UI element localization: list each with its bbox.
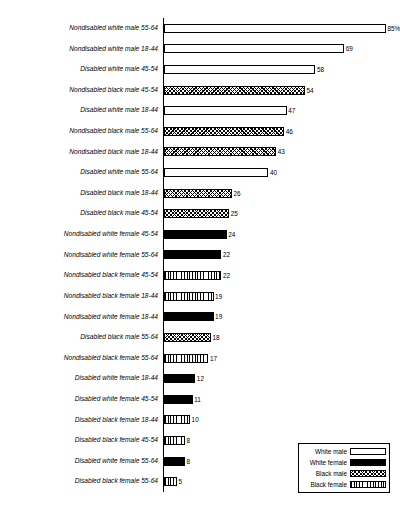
legend-swatch-black-female	[350, 481, 386, 489]
bar-black-female	[164, 415, 190, 424]
bar-wrapper: 54	[164, 80, 314, 101]
legend-item-white-female: White female	[302, 457, 386, 468]
bar-wrapper: 8	[164, 430, 190, 451]
bar-black-male	[164, 189, 232, 198]
bar-white-male	[164, 65, 315, 74]
bar-value-label: 19	[215, 292, 222, 301]
bar-category-label: Nondisabled white female 18-44	[0, 307, 158, 328]
legend-item-black-male: Black male	[302, 468, 386, 479]
bar-category-label: Nondisabled white male 18-44	[0, 39, 158, 60]
bar-category-label: Nondisabled black male 18-44	[0, 142, 158, 163]
bar-value-label: 43	[278, 147, 285, 156]
legend-item-label: White male	[315, 448, 347, 455]
plot-area: Nondisabled white male 55-6485%Nondisabl…	[0, 18, 397, 492]
bar-black-female	[164, 271, 221, 280]
bar-row: Disabled white male 45-5458	[0, 59, 397, 80]
legend-item-white-male: White male	[302, 446, 386, 457]
bar-category-label: Nondisabled white male 55-64	[0, 18, 158, 39]
bar-category-label: Disabled white male 55-64	[0, 162, 158, 183]
bar-value-label: 18	[213, 333, 220, 342]
bar-row: Disabled black male 45-5425	[0, 203, 397, 224]
bar-wrapper: 25	[164, 203, 238, 224]
bar-category-label: Disabled black male 55-64	[0, 327, 158, 348]
bar-wrapper: 5	[164, 471, 182, 492]
bar-value-label: 85%	[388, 24, 400, 33]
bar-wrapper: 19	[164, 307, 222, 328]
bar-row: Nondisabled white male 55-6485%	[0, 18, 397, 39]
bar-row: Disabled white female 18-4412	[0, 368, 397, 389]
bar-value-label: 24	[228, 230, 235, 239]
bar-wrapper: 24	[164, 224, 235, 245]
bar-category-label: Disabled white female 18-44	[0, 368, 158, 389]
bar-category-label: Nondisabled black female 18-44	[0, 286, 158, 307]
bar-row: Nondisabled black female 55-6417	[0, 348, 397, 369]
bar-row: Disabled white female 45-5411	[0, 389, 397, 410]
bar-wrapper: 19	[164, 286, 222, 307]
legend-swatch-white-female	[350, 459, 386, 467]
bar-black-male	[164, 127, 284, 136]
bar-value-label: 19	[215, 312, 222, 321]
bar-wrapper: 11	[164, 389, 201, 410]
legend-swatch-white-male	[350, 448, 386, 456]
bar-category-label: Disabled black female 55-64	[0, 471, 158, 492]
bar-value-label: 11	[194, 395, 201, 404]
bar-wrapper: 43	[164, 142, 285, 163]
bar-wrapper: 10	[164, 410, 199, 431]
chart-legend: White maleWhite femaleBlack maleBlack fe…	[298, 443, 390, 493]
bar-row: Disabled black male 18-4426	[0, 183, 397, 204]
bar-wrapper: 12	[164, 368, 204, 389]
bar-category-label: Nondisabled white female 45-54	[0, 224, 158, 245]
bar-category-label: Disabled white male 45-54	[0, 59, 158, 80]
bar-value-label: 12	[197, 374, 204, 383]
bar-row: Nondisabled black male 18-4443	[0, 142, 397, 163]
bar-row: Disabled white male 55-6440	[0, 162, 397, 183]
bar-category-label: Nondisabled black female 55-64	[0, 348, 158, 369]
bar-black-male	[164, 86, 305, 95]
bar-black-female	[164, 477, 177, 486]
bar-row: Nondisabled black female 45-5422	[0, 265, 397, 286]
bar-row: Nondisabled white male 18-4469	[0, 39, 397, 60]
bar-wrapper: 22	[164, 245, 230, 266]
bar-row: Nondisabled black male 45-5454	[0, 80, 397, 101]
bar-category-label: Nondisabled black male 45-54	[0, 80, 158, 101]
bar-row: Disabled white male 18-4447	[0, 100, 397, 121]
bar-black-male	[164, 147, 276, 156]
bar-wrapper: 22	[164, 265, 230, 286]
bar-wrapper: 85%	[164, 18, 400, 39]
bar-value-label: 17	[210, 354, 217, 363]
bar-value-label: 22	[223, 271, 230, 280]
bar-row: Nondisabled white female 18-4419	[0, 307, 397, 328]
bar-value-label: 46	[286, 127, 293, 136]
bar-wrapper: 8	[164, 451, 190, 472]
bar-wrapper: 40	[164, 162, 277, 183]
bar-category-label: Disabled white female 45-54	[0, 389, 158, 410]
bar-value-label: 8	[186, 457, 190, 466]
legend-item-label: Black male	[316, 470, 347, 477]
bar-row: Nondisabled black male 55-6446	[0, 121, 397, 142]
bar-wrapper: 18	[164, 327, 220, 348]
bar-value-label: 58	[317, 65, 324, 74]
bar-value-label: 22	[223, 250, 230, 259]
bar-value-label: 40	[270, 168, 277, 177]
bar-white-female	[164, 457, 185, 466]
bar-white-female	[164, 312, 214, 321]
bar-value-label: 5	[179, 477, 183, 486]
bar-wrapper: 69	[164, 39, 353, 60]
bar-black-male	[164, 333, 211, 342]
bar-wrapper: 47	[164, 100, 295, 121]
bar-row: Nondisabled white female 45-5424	[0, 224, 397, 245]
bar-value-label: 69	[346, 44, 353, 53]
bar-white-female	[164, 395, 193, 404]
legend-item-label: White female	[310, 459, 347, 466]
bar-row: Disabled black female 18-4410	[0, 410, 397, 431]
bar-white-male	[164, 24, 386, 33]
bar-black-female	[164, 354, 208, 363]
bar-category-label: Disabled white female 55-64	[0, 451, 158, 472]
bar-category-label: Nondisabled white female 55-64	[0, 245, 158, 266]
bar-value-label: 10	[192, 415, 199, 424]
legend-item-label: Black female	[310, 481, 347, 488]
bar-white-female	[164, 250, 221, 259]
bar-value-label: 47	[288, 106, 295, 115]
bar-wrapper: 58	[164, 59, 324, 80]
bar-category-label: Disabled black male 18-44	[0, 183, 158, 204]
